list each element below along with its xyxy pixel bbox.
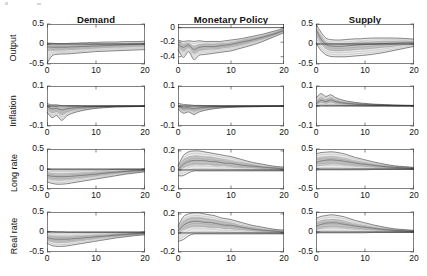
x-tick-label: 10 bbox=[355, 128, 375, 137]
plot-area-long_rate-supply bbox=[316, 149, 414, 189]
x-tick-label: 0 bbox=[306, 254, 326, 263]
y-tick-label: 0.1 bbox=[18, 81, 44, 90]
x-tick-label: 10 bbox=[355, 191, 375, 200]
row-label-output: Output bbox=[8, 25, 18, 71]
y-tick-label: 0.5 bbox=[287, 144, 313, 153]
y-tick-label: 0 bbox=[287, 39, 313, 48]
y-tick-label: 0 bbox=[18, 227, 44, 236]
plot-area-long_rate-demand bbox=[47, 149, 145, 189]
plot-panel-output-demand bbox=[47, 24, 145, 64]
y-tick-label: -0.2 bbox=[149, 37, 175, 46]
plot-panel-real_rate-supply bbox=[316, 212, 414, 252]
x-tick-label: 0 bbox=[37, 66, 57, 75]
x-tick-label: 10 bbox=[221, 191, 241, 200]
x-tick-label: 0 bbox=[37, 254, 57, 263]
row-label-inflation: Inflation bbox=[8, 88, 18, 134]
x-tick-label: 10 bbox=[86, 254, 106, 263]
x-tick-label: 20 bbox=[404, 254, 424, 263]
x-tick-label: 0 bbox=[168, 66, 188, 75]
y-tick-label: 0 bbox=[149, 165, 175, 174]
y-tick-label: 0.2 bbox=[149, 209, 175, 218]
y-tick-label: -0.4 bbox=[149, 52, 175, 61]
artifact-speck-right bbox=[37, 3, 41, 5]
y-tick-label: 0 bbox=[287, 101, 313, 110]
x-tick-label: 0 bbox=[37, 128, 57, 137]
plot-area-real_rate-monetary_policy bbox=[178, 212, 284, 252]
plot-panel-real_rate-monetary_policy bbox=[178, 212, 284, 252]
plot-area-long_rate-monetary_policy bbox=[178, 149, 284, 189]
y-tick-label: 0 bbox=[149, 101, 175, 110]
x-tick-label: 0 bbox=[306, 128, 326, 137]
plot-panel-long_rate-demand bbox=[47, 149, 145, 189]
y-tick-label: 0 bbox=[149, 23, 175, 32]
plot-area-inflation-demand bbox=[47, 86, 145, 126]
plot-panel-output-monetary_policy bbox=[178, 24, 284, 64]
y-tick-label: 0.5 bbox=[287, 19, 313, 28]
y-tick-label: 0 bbox=[149, 228, 175, 237]
plot-area-real_rate-supply bbox=[316, 212, 414, 252]
x-tick-label: 10 bbox=[86, 128, 106, 137]
y-tick-label: 0 bbox=[18, 164, 44, 173]
artifact-speck-left bbox=[5, 2, 8, 5]
x-tick-label: 10 bbox=[355, 254, 375, 263]
y-tick-label: 0.5 bbox=[18, 19, 44, 28]
x-tick-label: 20 bbox=[404, 128, 424, 137]
plot-panel-inflation-monetary_policy bbox=[178, 86, 284, 126]
y-tick-label: 0.2 bbox=[149, 146, 175, 155]
x-tick-label: 0 bbox=[168, 254, 188, 263]
plot-area-output-demand bbox=[47, 24, 145, 64]
x-tick-label: 0 bbox=[37, 191, 57, 200]
x-tick-label: 10 bbox=[221, 128, 241, 137]
plot-area-inflation-supply bbox=[316, 86, 414, 126]
y-tick-label: 0.1 bbox=[287, 81, 313, 90]
y-tick-label: 0.5 bbox=[18, 144, 44, 153]
plot-area-output-monetary_policy bbox=[178, 24, 284, 64]
x-tick-label: 10 bbox=[221, 66, 241, 75]
x-tick-label: 20 bbox=[404, 191, 424, 200]
plot-panel-real_rate-demand bbox=[47, 212, 145, 252]
plot-panel-inflation-demand bbox=[47, 86, 145, 126]
x-tick-label: 0 bbox=[168, 191, 188, 200]
y-tick-label: 0 bbox=[287, 227, 313, 236]
x-tick-label: 20 bbox=[404, 66, 424, 75]
y-tick-label: 0 bbox=[18, 39, 44, 48]
x-tick-label: 10 bbox=[86, 66, 106, 75]
y-tick-label: 0.5 bbox=[18, 207, 44, 216]
x-tick-label: 20 bbox=[135, 66, 155, 75]
x-tick-label: 0 bbox=[168, 128, 188, 137]
y-tick-label: 0 bbox=[287, 164, 313, 173]
x-tick-label: 0 bbox=[306, 191, 326, 200]
plot-area-real_rate-demand bbox=[47, 212, 145, 252]
figure-canvas: Demand Monetary Policy Supply Output Inf… bbox=[0, 0, 427, 276]
plot-area-inflation-monetary_policy bbox=[178, 86, 284, 126]
plot-panel-long_rate-monetary_policy bbox=[178, 149, 284, 189]
y-tick-label: 0 bbox=[18, 101, 44, 110]
plot-panel-output-supply bbox=[316, 24, 414, 64]
plot-area-output-supply bbox=[316, 24, 414, 64]
x-tick-label: 10 bbox=[355, 66, 375, 75]
x-tick-label: 0 bbox=[306, 66, 326, 75]
y-tick-label: 0.1 bbox=[149, 81, 175, 90]
plot-panel-long_rate-supply bbox=[316, 149, 414, 189]
y-tick-label: 0.5 bbox=[287, 207, 313, 216]
x-tick-label: 10 bbox=[221, 254, 241, 263]
plot-panel-inflation-supply bbox=[316, 86, 414, 126]
x-tick-label: 10 bbox=[86, 191, 106, 200]
